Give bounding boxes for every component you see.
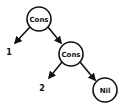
- node-nil: Nil: [93, 78, 117, 102]
- leaf-value-1: 1: [6, 48, 12, 57]
- node-label: Cons: [29, 16, 48, 24]
- edge-cons1-to-1: [15, 27, 30, 43]
- edge-cons2-to-2: [49, 62, 62, 78]
- cons-list-tree-diagram: Cons Cons Nil 1 2: [0, 0, 128, 106]
- node-label: Cons: [61, 51, 80, 59]
- node-cons-root: Cons: [27, 7, 51, 31]
- node-label: Nil: [100, 87, 111, 95]
- leaf-value-2: 2: [39, 84, 45, 93]
- edge-cons1-to-cons2: [48, 27, 61, 43]
- edge-cons2-to-nil: [80, 62, 95, 80]
- node-cons-child: Cons: [59, 42, 83, 66]
